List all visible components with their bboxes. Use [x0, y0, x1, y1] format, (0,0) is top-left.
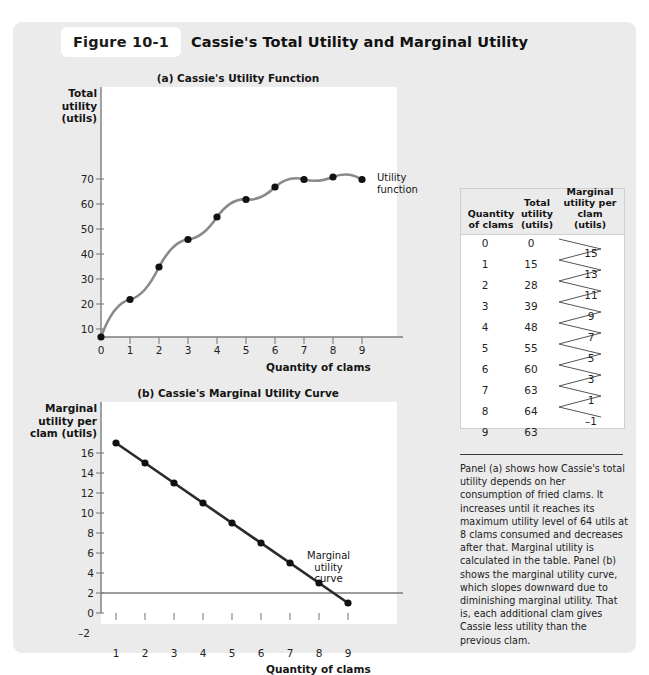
panel-a-xtick-2: 2 — [152, 344, 166, 356]
panel-a-ytick-10: 10 — [72, 323, 94, 335]
table-cell-marginal-utility: –1 — [573, 415, 609, 427]
panel-b-xtick-9: 9 — [341, 647, 355, 659]
panel-a-annotation: Utility function — [377, 172, 418, 195]
panel-a-xtick-0: 0 — [94, 344, 108, 356]
panel-a-xtick-8: 8 — [326, 344, 340, 356]
table-cell-marginal-utility: 3 — [573, 373, 609, 385]
figure-card: Figure 10-1 Cassie's Total Utility and M… — [13, 22, 636, 653]
panel-b-ytick-14: 14 — [72, 467, 94, 479]
table-header-total-utility: Total utility (utils) — [515, 197, 559, 230]
figure-caption: Panel (a) shows how Cassie's total utili… — [460, 462, 628, 647]
panel-b-xtick-2: 2 — [138, 647, 152, 659]
table-cell-marginal-utility: 5 — [573, 352, 609, 364]
panel-a-ytick-30: 30 — [72, 273, 94, 285]
table-row: 3 — [467, 300, 503, 312]
panel-b-ytick-4: 4 — [72, 567, 94, 579]
caption-divider — [460, 454, 623, 455]
panel-b-x-axis-label: Quantity of clams — [266, 663, 371, 675]
table-cell-marginal-utility: 11 — [573, 289, 609, 301]
panel-a-ytick-40: 40 — [72, 248, 94, 260]
panel-a-xtick-1: 1 — [123, 344, 137, 356]
table-header-marginal-utility: Marginal utility per clam (utils) — [557, 186, 623, 230]
table-cell-marginal-utility: 9 — [573, 310, 609, 322]
panel-b-annotation: Marginal utility curve — [307, 550, 350, 585]
panel-b-xtick-4: 4 — [196, 647, 210, 659]
table-row: 6 — [467, 363, 503, 375]
table-cell-marginal-utility: 15 — [573, 247, 609, 259]
panel-a-xtick-3: 3 — [181, 344, 195, 356]
table-cell-total-utility: 63 — [513, 384, 549, 396]
panel-b-ytick-10: 10 — [72, 507, 94, 519]
panel-b-xtick-7: 7 — [283, 647, 297, 659]
table-row: 0 — [467, 237, 503, 249]
panel-b-ytick-16: 16 — [72, 447, 94, 459]
panel-b-xtick-8: 8 — [312, 647, 326, 659]
panel-a-chart — [73, 82, 433, 362]
panel-b-ytick-6: 6 — [72, 547, 94, 559]
table-cell-marginal-utility: 7 — [573, 331, 609, 343]
table-cell-total-utility: 48 — [513, 321, 549, 333]
figure-tag: Figure 10-1 — [61, 27, 181, 57]
table-row: 4 — [467, 321, 503, 333]
figure-header: Figure 10-1 Cassie's Total Utility and M… — [13, 22, 636, 62]
panel-a-ytick-20: 20 — [72, 298, 94, 310]
figure-tag-label: Figure 10-1 — [61, 27, 181, 57]
utility-data-table: Quantity of clams Total utility (utils) … — [460, 188, 625, 429]
table-cell-total-utility: 64 — [513, 405, 549, 417]
table-row: 9 — [467, 426, 503, 438]
table-cell-total-utility: 28 — [513, 279, 549, 291]
table-cell-marginal-utility: 1 — [573, 394, 609, 406]
table-row: 2 — [467, 279, 503, 291]
panel-b-ytick-12: 12 — [72, 487, 94, 499]
table-cell-total-utility: 15 — [513, 258, 549, 270]
panel-b-ytick-0: 0 — [72, 607, 94, 619]
panel-b-ytick-2: 2 — [72, 587, 94, 599]
figure-title: Cassie's Total Utility and Marginal Util… — [191, 27, 528, 57]
table-cell-total-utility: 63 — [513, 426, 549, 438]
panel-a-xtick-7: 7 — [297, 344, 311, 356]
panel-a-xtick-6: 6 — [268, 344, 282, 356]
panel-a-xtick-5: 5 — [239, 344, 253, 356]
panel-b-xtick-1: 1 — [109, 647, 123, 659]
panel-a-ytick-60: 60 — [72, 198, 94, 210]
panel-a-x-axis-label: Quantity of clams — [266, 361, 371, 373]
table-cell-total-utility: 55 — [513, 342, 549, 354]
panel-a-ytick-70: 70 — [72, 173, 94, 185]
panel-a-xtick-9: 9 — [355, 344, 369, 356]
panel-a-xtick-4: 4 — [210, 344, 224, 356]
panel-b-ytick-8: 8 — [72, 527, 94, 539]
panel-b-chart — [73, 397, 433, 647]
table-cell-total-utility: 60 — [513, 363, 549, 375]
panel-b-xtick-3: 3 — [167, 647, 181, 659]
panel-b-ytick-neg2: –2 — [68, 627, 90, 639]
table-cell-total-utility: 0 — [513, 237, 549, 249]
table-row: 5 — [467, 342, 503, 354]
panel-a-ytick-50: 50 — [72, 223, 94, 235]
panel-b-xtick-6: 6 — [254, 647, 268, 659]
table-row: 7 — [467, 384, 503, 396]
table-cell-total-utility: 39 — [513, 300, 549, 312]
table-header-quantity: Quantity of clams — [465, 208, 517, 230]
panel-b-xtick-5: 5 — [225, 647, 239, 659]
table-row: 8 — [467, 405, 503, 417]
table-header-row: Quantity of clams Total utility (utils) … — [461, 189, 624, 235]
table-cell-marginal-utility: 13 — [573, 268, 609, 280]
table-row: 1 — [467, 258, 503, 270]
